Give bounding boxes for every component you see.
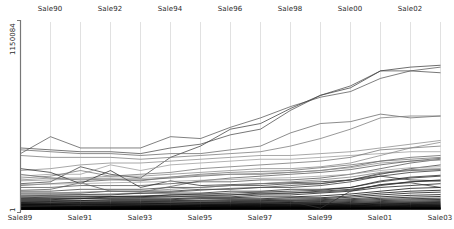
- axis-label-sale91[interactable]: Sale91: [68, 214, 93, 223]
- parallel-coordinates-plot: Sale90Sale92Sale94Sale96Sale98Sale00Sale…: [0, 0, 454, 229]
- axis-label-sale99[interactable]: Sale99: [308, 214, 333, 223]
- axis-label-sale94[interactable]: Sale94: [158, 5, 183, 14]
- axis-label-sale95[interactable]: Sale95: [188, 214, 213, 223]
- axis-label-sale97[interactable]: Sale97: [248, 214, 273, 223]
- axis-label-sale92[interactable]: Sale92: [98, 5, 123, 14]
- y-axis-line: [17, 20, 21, 213]
- axis-label-sale00[interactable]: Sale00: [338, 5, 363, 14]
- axis-label-sale93[interactable]: Sale93: [128, 214, 153, 223]
- y-axis-max-label: 1150084: [9, 23, 17, 55]
- axis-label-sale98[interactable]: Sale98: [278, 5, 303, 14]
- y-axis-min-label: 1: [9, 207, 17, 212]
- axis-label-sale90[interactable]: Sale90: [38, 5, 63, 14]
- axis-label-sale01[interactable]: Sale01: [368, 214, 393, 223]
- axis-label-sale96[interactable]: Sale96: [218, 5, 243, 14]
- axis-label-sale02[interactable]: Sale02: [398, 5, 423, 14]
- chart-canvas: [0, 0, 454, 229]
- axis-label-sale89[interactable]: Sale89: [8, 214, 33, 223]
- axis-label-sale03[interactable]: Sale03: [428, 214, 453, 223]
